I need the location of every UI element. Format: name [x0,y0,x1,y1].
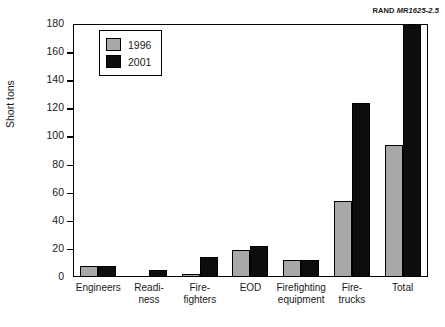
figure-source-label: RAND MR1625-2.5 [372,6,439,15]
y-axis-tick-label: 120 [46,101,64,113]
y-axis-tick-label: 60 [52,186,64,198]
bar-2001 [352,103,370,277]
bar-1996 [385,145,403,277]
rand-document-number: MR1625-2.5 [397,6,439,15]
bar-1996 [283,260,301,277]
legend-label-1996: 1996 [128,39,151,51]
legend-label-2001: 2001 [128,56,151,68]
y-axis-tick-label: 160 [46,45,64,57]
bar-group [377,24,428,277]
bar-2001 [98,266,116,277]
bar-2001 [250,246,268,277]
rand-org-label: RAND [372,6,394,15]
legend-swatch-1996 [106,38,121,51]
bar-group [174,24,225,277]
y-axis-tick-label: 0 [58,270,64,282]
bar-1996 [80,266,98,277]
bar-group [327,24,378,277]
bar-2001 [149,270,167,277]
bar-1996 [182,274,200,277]
legend-item: 1996 [106,36,151,53]
y-axis-tick-label: 40 [52,214,64,226]
bar-1996 [334,201,352,277]
legend-item: 2001 [106,53,151,70]
y-axis-title: Short tons [4,80,16,128]
bar-group [225,24,276,277]
bar-1996 [232,250,250,277]
legend-swatch-2001 [106,55,121,68]
y-axis-tick-label: 100 [46,129,64,141]
chart-legend: 1996 2001 [99,30,162,76]
x-axis-labels: EngineersReadi- nessFire- fightersEODFir… [73,282,428,326]
y-axis-tick-label: 180 [46,17,64,29]
y-axis-tick-label: 140 [46,73,64,85]
bar-group [276,24,327,277]
x-axis-label: Total [371,282,434,294]
bar-2001 [403,24,421,277]
bar-2001 [301,260,319,277]
bar-2001 [200,257,218,277]
y-axis-tick-label: 20 [52,242,64,254]
y-axis-tick-label: 80 [52,158,64,170]
